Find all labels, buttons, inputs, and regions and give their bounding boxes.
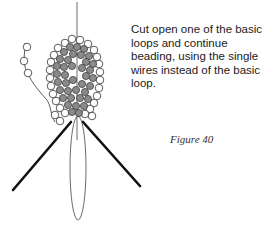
- basic-loop: [70, 116, 86, 220]
- instruction-text: Cut open one of the basic loops and cont…: [131, 23, 271, 91]
- left-thick-wire: [13, 122, 71, 190]
- figure-label: Figure 40: [170, 133, 213, 145]
- loose-beads: [20, 43, 32, 77]
- right-thick-wire: [83, 122, 140, 186]
